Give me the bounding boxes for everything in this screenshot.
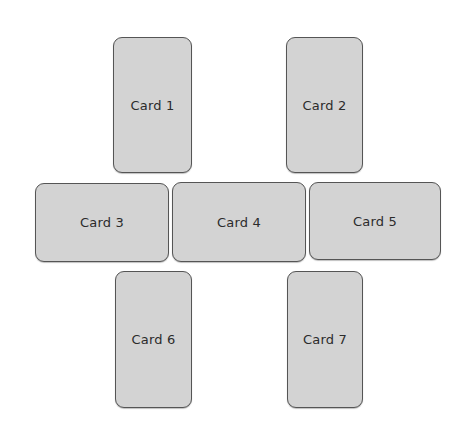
- card-5-label: Card 5: [353, 214, 397, 229]
- card-7: Card 7: [287, 271, 363, 408]
- card-3-label: Card 3: [80, 215, 124, 230]
- cropped-heading-fragment: [20, 0, 440, 5]
- card-3: Card 3: [35, 183, 169, 262]
- card-6: Card 6: [115, 271, 192, 408]
- card-2: Card 2: [286, 37, 363, 173]
- card-4-label: Card 4: [217, 215, 261, 230]
- card-4: Card 4: [172, 182, 306, 262]
- card-6-label: Card 6: [131, 332, 175, 347]
- card-5: Card 5: [309, 182, 441, 260]
- card-1: Card 1: [113, 37, 192, 173]
- card-7-label: Card 7: [303, 332, 347, 347]
- card-1-label: Card 1: [130, 98, 174, 113]
- card-2-label: Card 2: [302, 98, 346, 113]
